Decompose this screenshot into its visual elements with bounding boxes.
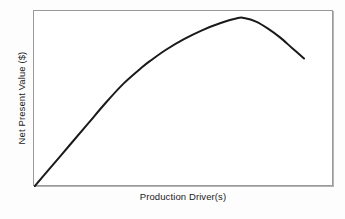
chart-figure: Net Present Value ($) Production Driver(… [0, 0, 345, 219]
npv-curve-line [34, 17, 304, 187]
plot-area [33, 10, 333, 186]
npv-curve-svg [34, 11, 334, 187]
y-axis-label: Net Present Value ($) [15, 10, 29, 186]
x-axis-label: Production Driver(s) [33, 191, 333, 202]
